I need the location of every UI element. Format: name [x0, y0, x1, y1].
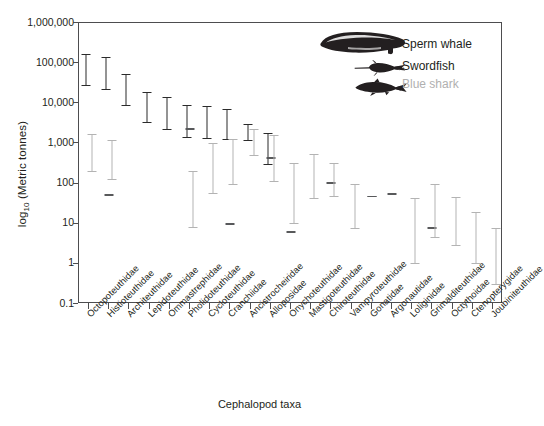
x-tick-mark — [492, 303, 493, 309]
y-tick-mark — [73, 223, 78, 224]
legend-item-sperm-whale: Sperm whale — [402, 38, 472, 51]
y-tick-mark — [73, 263, 78, 264]
y-tick-mark — [73, 303, 78, 304]
x-axis-title: Cephalopod taxa — [0, 398, 519, 410]
x-tick-mark — [330, 303, 331, 309]
x-tick-mark — [290, 303, 291, 309]
x-tick-mark — [391, 303, 392, 309]
swordfish-icon — [354, 60, 408, 77]
legend-item-blue-shark: Blue shark — [402, 78, 459, 91]
x-tick-mark — [209, 303, 210, 309]
x-tick-mark — [371, 303, 372, 309]
x-tick-mark — [472, 303, 473, 309]
x-tick-mark — [351, 303, 352, 309]
x-tick-mark — [88, 303, 89, 309]
x-tick-mark — [411, 303, 412, 309]
x-tick-mark — [128, 303, 129, 309]
x-tick-mark — [270, 303, 271, 309]
x-tick-mark — [250, 303, 251, 309]
legend: Sperm whaleSwordfishBlue shark — [318, 30, 503, 102]
x-tick-mark — [149, 303, 150, 309]
x-tick-mark — [169, 303, 170, 309]
y-tick-mark — [73, 183, 78, 184]
legend-item-swordfish: Swordfish — [402, 60, 455, 73]
x-tick-mark — [108, 303, 109, 309]
x-tick-mark — [189, 303, 190, 309]
x-tick-mark — [229, 303, 230, 309]
y-tick-mark — [73, 22, 78, 23]
x-tick-mark — [431, 303, 432, 309]
sperm-whale-icon — [318, 30, 408, 60]
x-tick-mark — [310, 303, 311, 309]
y-tick-mark — [73, 102, 78, 103]
x-tick-mark — [452, 303, 453, 309]
blue-shark-icon — [354, 78, 408, 97]
y-tick-mark — [73, 142, 78, 143]
y-tick-mark — [73, 62, 78, 63]
